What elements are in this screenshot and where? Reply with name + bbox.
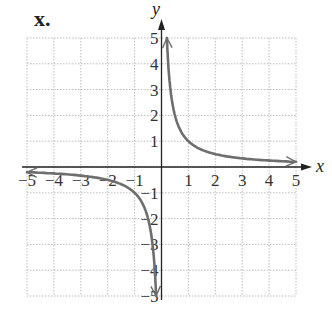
y-axis-arrow-icon: [158, 19, 165, 30]
x-tick-label: 4: [265, 171, 274, 190]
curve-right-branch: [167, 38, 296, 162]
curve-left-branch: [27, 172, 156, 296]
y-axis-label: y: [150, 0, 160, 19]
y-tick-label: 1: [150, 132, 159, 151]
x-axis-label: x: [315, 156, 324, 176]
y-tick-label: −1: [140, 184, 158, 203]
x-tick-label: 5: [292, 171, 301, 190]
x-axis-arrow-icon: [301, 164, 312, 171]
x-tick-label: −5: [18, 171, 36, 190]
y-tick-label: 5: [150, 29, 159, 48]
chart-plot: −5−4−3−2−112345−5−4−3−2−112345 x y: [0, 0, 332, 319]
y-tick-label: 4: [150, 55, 159, 74]
y-tick-label: −3: [140, 235, 158, 254]
x-tick-label: 2: [211, 171, 220, 190]
y-tick-label: 2: [150, 106, 159, 125]
x-tick-label: 1: [184, 171, 193, 190]
y-tick-label: 3: [150, 81, 159, 100]
x-tick-label: 3: [238, 171, 247, 190]
